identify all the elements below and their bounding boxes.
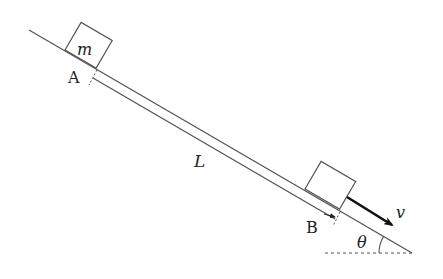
block-bottom xyxy=(305,161,356,209)
distance-label: L xyxy=(193,151,205,171)
angle-arc xyxy=(379,236,384,253)
point-a-label: A xyxy=(67,68,80,87)
marker-a xyxy=(89,70,97,85)
incline-diagram: m A B L v θ xyxy=(0,0,443,279)
incline-surface xyxy=(29,30,412,253)
marker-b-arrow xyxy=(324,214,335,217)
track-lower-edge xyxy=(93,78,335,219)
mass-label: m xyxy=(77,40,92,59)
angle-label: θ xyxy=(357,233,367,252)
velocity-label: v xyxy=(396,203,405,222)
point-b-label: B xyxy=(306,218,318,237)
velocity-arrow xyxy=(347,197,392,225)
